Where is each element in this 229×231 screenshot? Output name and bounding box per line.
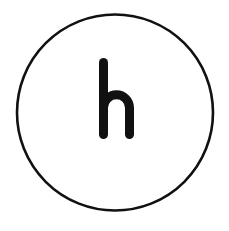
icon-canvas: h bbox=[0, 0, 229, 231]
circle-outline bbox=[17, 15, 213, 211]
letter-h-in-circle-icon bbox=[0, 0, 229, 231]
